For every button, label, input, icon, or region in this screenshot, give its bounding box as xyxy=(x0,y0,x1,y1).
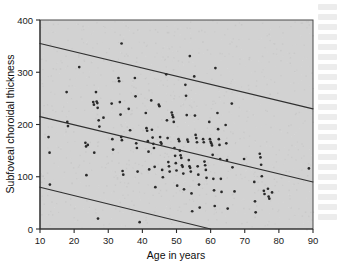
data-point xyxy=(97,217,100,220)
data-point xyxy=(189,170,192,173)
data-point xyxy=(170,111,173,114)
data-point xyxy=(254,200,257,203)
data-point xyxy=(204,164,207,167)
data-point xyxy=(111,138,114,141)
data-point xyxy=(180,157,183,160)
data-point xyxy=(168,170,171,173)
data-point xyxy=(214,67,217,70)
data-point xyxy=(258,152,261,155)
data-point xyxy=(146,129,149,132)
data-point xyxy=(151,136,154,139)
data-point xyxy=(178,140,181,143)
data-point xyxy=(95,91,98,94)
data-point xyxy=(162,176,165,179)
data-point xyxy=(209,138,212,141)
data-point xyxy=(135,142,138,145)
data-point xyxy=(196,141,199,144)
data-point xyxy=(181,165,184,168)
data-point xyxy=(195,137,198,140)
data-point xyxy=(191,210,194,213)
x-tick-label: 20 xyxy=(69,235,80,246)
data-point xyxy=(160,142,163,145)
data-point xyxy=(263,190,266,193)
data-point xyxy=(92,101,95,104)
data-point xyxy=(154,186,157,189)
data-point xyxy=(153,165,156,168)
data-point xyxy=(119,101,122,104)
data-point xyxy=(260,163,263,166)
data-point xyxy=(49,183,52,186)
data-point xyxy=(174,155,177,158)
data-point xyxy=(158,105,161,108)
data-point xyxy=(134,77,137,80)
data-point xyxy=(96,106,99,109)
scatter-chart: 102030405060708090 0100200300400 Age in … xyxy=(0,0,340,269)
data-point xyxy=(231,166,234,169)
data-point xyxy=(150,99,153,102)
y-axis-ticks: 0100200300400 xyxy=(17,15,40,235)
data-point xyxy=(172,121,175,124)
data-point xyxy=(172,116,175,119)
data-point xyxy=(118,80,121,83)
data-point xyxy=(202,138,205,141)
data-point xyxy=(153,147,156,150)
data-point xyxy=(213,189,216,192)
x-tick-label: 30 xyxy=(103,235,114,246)
data-point xyxy=(254,211,257,214)
data-point xyxy=(85,174,88,177)
data-point xyxy=(225,142,228,145)
data-point xyxy=(198,206,201,209)
data-point xyxy=(190,192,193,195)
x-tick-label: 60 xyxy=(205,235,216,246)
data-point xyxy=(78,66,81,69)
x-tick-label: 10 xyxy=(35,235,46,246)
data-point xyxy=(308,167,311,170)
data-point xyxy=(216,112,219,115)
data-point xyxy=(93,103,96,106)
data-point xyxy=(230,102,233,105)
data-point xyxy=(203,160,206,163)
data-point xyxy=(167,161,170,164)
data-point xyxy=(267,187,270,190)
data-point xyxy=(218,144,221,147)
data-point xyxy=(65,91,68,94)
x-axis-ticks: 102030405060708090 xyxy=(35,229,319,246)
data-point xyxy=(194,134,197,137)
data-point xyxy=(147,150,150,153)
x-tick-label: 80 xyxy=(274,235,285,246)
x-tick-label: 40 xyxy=(137,235,148,246)
data-point xyxy=(168,165,171,168)
data-point xyxy=(187,140,190,143)
data-point xyxy=(97,119,100,122)
data-point xyxy=(185,94,188,97)
data-point xyxy=(212,177,215,180)
data-point xyxy=(112,148,115,151)
data-point xyxy=(217,128,220,131)
data-point xyxy=(271,191,274,194)
data-point xyxy=(197,173,200,176)
data-point xyxy=(48,151,51,154)
data-point xyxy=(211,153,214,156)
y-tick-label: 100 xyxy=(17,171,33,182)
data-point xyxy=(213,205,216,208)
data-point xyxy=(268,197,271,200)
data-point xyxy=(98,125,101,128)
data-point xyxy=(211,144,214,147)
data-point xyxy=(188,55,191,58)
data-point xyxy=(193,75,196,78)
data-point xyxy=(122,173,125,176)
data-point xyxy=(179,154,182,157)
data-point xyxy=(175,169,178,172)
figure-container: 102030405060708090 0100200300400 Age in … xyxy=(0,0,340,269)
data-point xyxy=(102,116,105,119)
y-tick-label: 0 xyxy=(28,224,33,235)
data-point xyxy=(138,221,141,224)
data-point xyxy=(182,172,185,175)
y-tick-label: 300 xyxy=(17,67,33,78)
y-axis-title: Subfoveal choroidal thickness xyxy=(4,55,16,194)
data-point xyxy=(148,168,151,171)
data-point xyxy=(129,129,132,132)
data-point xyxy=(67,125,70,128)
data-point xyxy=(184,83,187,86)
data-point xyxy=(151,128,154,131)
